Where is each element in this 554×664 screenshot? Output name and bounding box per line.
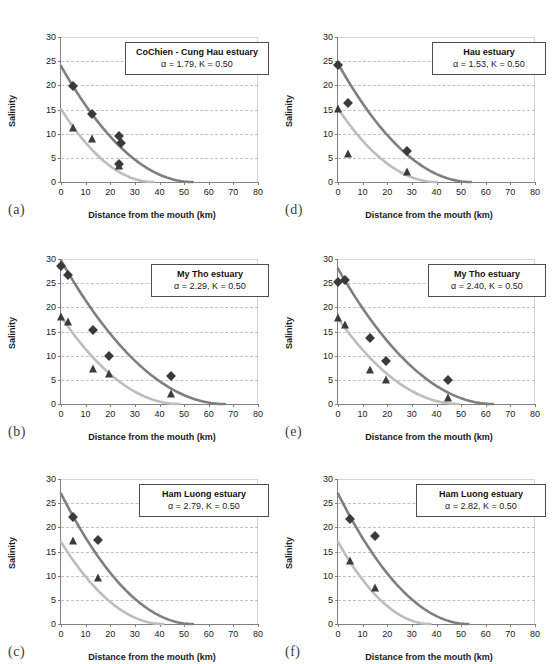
x-tick-mark (338, 404, 339, 407)
x-tick-mark (160, 404, 161, 407)
data-point-triangle (382, 375, 390, 383)
y-axis-label: Salinity (7, 95, 17, 127)
legend-parameters: α = 1.79, K = 0.50 (133, 58, 261, 70)
y-tick-label: 5 (328, 153, 333, 163)
x-tick-label: 0 (335, 629, 340, 639)
x-tick-label: 20 (105, 187, 115, 197)
x-tick-mark (510, 624, 511, 627)
x-tick-label: 50 (179, 629, 189, 639)
y-tick-label: 5 (51, 375, 56, 385)
x-tick-label: 50 (179, 409, 189, 419)
x-tick-mark (209, 404, 210, 407)
y-tick-label: 30 (323, 32, 333, 42)
legend-title: Ham Luong estuary (424, 488, 538, 500)
x-tick-mark (510, 182, 511, 185)
legend-box: My Tho estuaryα = 2.40, K = 0.50 (428, 264, 546, 297)
legend-box: Hau estuaryα = 1.53, K = 0.50 (432, 42, 546, 75)
x-tick-mark (86, 624, 87, 627)
chart-panel-a: SalinityDistance from the mouth (km)(a)0… (0, 0, 277, 222)
x-tick-label: 70 (505, 409, 515, 419)
x-axis-label: Distance from the mouth (km) (309, 652, 549, 662)
legend-box: My Tho estuaryα = 2.29, K = 0.50 (151, 264, 269, 297)
x-tick-mark (209, 624, 210, 627)
data-point-triangle (64, 318, 72, 326)
x-tick-label: 20 (382, 409, 392, 419)
x-tick-mark (363, 624, 364, 627)
y-axis-label: Salinity (284, 317, 294, 349)
y-tick-label: 20 (323, 522, 333, 532)
y-tick-label: 10 (323, 351, 333, 361)
x-tick-label: 60 (481, 629, 491, 639)
lower-fitted-curve (61, 542, 163, 624)
x-tick-mark (338, 182, 339, 185)
y-tick-label: 0 (51, 177, 56, 187)
y-tick-label: 0 (51, 399, 56, 409)
x-tick-label: 70 (228, 629, 238, 639)
y-tick-label: 30 (323, 254, 333, 264)
x-tick-label: 50 (179, 187, 189, 197)
x-tick-mark (486, 182, 487, 185)
x-tick-mark (258, 182, 259, 185)
data-point-triangle (69, 537, 77, 545)
x-tick-label: 30 (407, 187, 417, 197)
x-tick-label: 30 (407, 629, 417, 639)
data-point-triangle (105, 369, 113, 377)
y-tick-label: 30 (46, 474, 56, 484)
x-tick-mark (461, 404, 462, 407)
x-tick-mark (437, 624, 438, 627)
x-axis-label: Distance from the mouth (km) (32, 210, 272, 220)
legend-parameters: α = 2.29, K = 0.50 (159, 280, 261, 292)
y-axis-label: Salinity (7, 537, 17, 569)
x-tick-label: 30 (407, 409, 417, 419)
chart-panel-e: SalinityDistance from the mouth (km)(e)0… (277, 222, 554, 444)
y-tick-label: 15 (46, 547, 56, 557)
x-tick-label: 60 (204, 629, 214, 639)
y-tick-label: 25 (46, 278, 56, 288)
x-tick-mark (258, 404, 259, 407)
data-point-triangle (167, 390, 175, 398)
data-point-triangle (334, 104, 342, 112)
x-tick-label: 70 (228, 409, 238, 419)
x-tick-mark (486, 624, 487, 627)
x-tick-label: 20 (382, 187, 392, 197)
y-tick-label: 20 (46, 522, 56, 532)
panel-letter: (b) (8, 424, 26, 440)
y-tick-label: 5 (328, 595, 333, 605)
y-tick-label: 15 (323, 327, 333, 337)
x-tick-mark (535, 624, 536, 627)
panel-letter: (f) (285, 644, 301, 660)
y-tick-label: 0 (328, 177, 333, 187)
x-tick-mark (387, 404, 388, 407)
x-tick-mark (233, 182, 234, 185)
y-tick-label: 30 (46, 254, 56, 264)
x-tick-mark (135, 182, 136, 185)
x-tick-mark (86, 182, 87, 185)
x-tick-label: 80 (253, 187, 263, 197)
plot-area: 05101520253001020304050607080My Tho estu… (60, 259, 258, 405)
data-point-triangle (115, 162, 123, 170)
x-axis-label: Distance from the mouth (km) (32, 432, 272, 442)
y-tick-label: 30 (323, 474, 333, 484)
lower-fitted-curve (338, 109, 437, 182)
y-tick-label: 15 (323, 105, 333, 115)
data-point-triangle (444, 394, 452, 402)
x-tick-label: 10 (358, 187, 368, 197)
upper-fitted-curve (61, 66, 193, 182)
x-tick-mark (209, 182, 210, 185)
data-point-triangle (88, 135, 96, 143)
x-tick-label: 10 (358, 629, 368, 639)
x-tick-mark (510, 404, 511, 407)
panel-letter: (e) (285, 424, 302, 440)
x-tick-label: 40 (431, 187, 441, 197)
y-tick-label: 0 (328, 619, 333, 629)
y-tick-label: 20 (323, 80, 333, 90)
panel-letter: (c) (8, 644, 25, 660)
y-tick-label: 25 (323, 56, 333, 66)
x-tick-label: 80 (253, 409, 263, 419)
data-point-triangle (346, 557, 354, 565)
x-tick-label: 60 (204, 409, 214, 419)
legend-parameters: α = 2.40, K = 0.50 (436, 280, 538, 292)
y-tick-label: 0 (328, 399, 333, 409)
y-tick-label: 25 (323, 498, 333, 508)
y-tick-label: 30 (46, 32, 56, 42)
